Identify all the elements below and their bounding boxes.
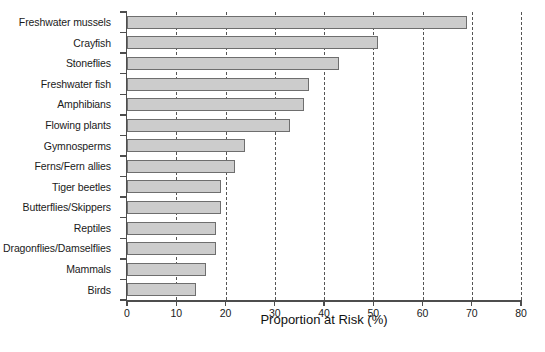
bar-row	[127, 156, 521, 177]
category-label: Freshwater mussels	[0, 12, 118, 33]
y-tick	[120, 52, 127, 53]
bar-row	[127, 135, 521, 156]
category-label: Crayfish	[0, 33, 118, 54]
x-axis-title: Proportion at Risk (%)	[127, 313, 521, 326]
bar	[127, 263, 206, 276]
x-tick	[176, 300, 177, 306]
x-tick	[373, 300, 374, 306]
category-label: Reptiles	[0, 218, 118, 239]
bar-row	[127, 115, 521, 136]
bar-row	[127, 53, 521, 74]
bar	[127, 180, 221, 193]
bar-row	[127, 280, 521, 301]
category-axis-labels: Freshwater musselsCrayfishStonefliesFres…	[0, 12, 118, 300]
category-label: Flowing plants	[0, 115, 118, 136]
bar	[127, 36, 378, 49]
bar-row	[127, 197, 521, 218]
bar	[127, 78, 309, 91]
bar	[127, 242, 216, 255]
y-tick	[120, 238, 127, 239]
bar	[127, 160, 235, 173]
x-tick	[126, 300, 127, 306]
category-label: Gymnosperms	[0, 135, 118, 156]
y-tick	[120, 258, 127, 259]
plot-area: 01020304050607080	[127, 12, 521, 300]
x-tick	[274, 300, 275, 306]
bar-row	[127, 218, 521, 239]
x-tick	[323, 300, 324, 306]
bar	[127, 119, 290, 132]
x-tick	[225, 300, 226, 306]
bar-row	[127, 74, 521, 95]
bar-row	[127, 177, 521, 198]
category-label: Ferns/Fern allies	[0, 156, 118, 177]
y-tick	[120, 94, 127, 95]
x-tick	[422, 300, 423, 306]
y-tick	[120, 176, 127, 177]
y-tick	[120, 196, 127, 197]
y-tick	[120, 11, 127, 12]
category-label: Mammals	[0, 259, 118, 280]
bar	[127, 57, 339, 70]
gridline	[521, 12, 522, 300]
bar-row	[127, 12, 521, 33]
bar-row	[127, 94, 521, 115]
y-tick	[120, 114, 127, 115]
bar-series	[127, 12, 521, 300]
y-tick	[120, 155, 127, 156]
x-tick	[520, 300, 521, 306]
y-tick	[120, 73, 127, 74]
bar	[127, 201, 221, 214]
category-label: Amphibians	[0, 94, 118, 115]
category-label: Butterflies/Skippers	[0, 197, 118, 218]
x-tick	[471, 300, 472, 306]
bar	[127, 283, 196, 296]
y-tick	[120, 299, 127, 300]
bar	[127, 139, 245, 152]
category-label: Freshwater fish	[0, 74, 118, 95]
category-label: Birds	[0, 280, 118, 301]
bar-row	[127, 259, 521, 280]
bar-chart: Freshwater musselsCrayfishStonefliesFres…	[0, 0, 545, 352]
category-label: Dragonflies/Damselflies	[0, 238, 118, 259]
bar-row	[127, 33, 521, 54]
y-tick	[120, 217, 127, 218]
bar	[127, 222, 216, 235]
bar	[127, 98, 304, 111]
bar	[127, 16, 467, 29]
y-tick	[120, 135, 127, 136]
y-tick	[120, 279, 127, 280]
bar-row	[127, 238, 521, 259]
category-label: Stoneflies	[0, 53, 118, 74]
y-tick	[120, 32, 127, 33]
category-label: Tiger beetles	[0, 177, 118, 198]
